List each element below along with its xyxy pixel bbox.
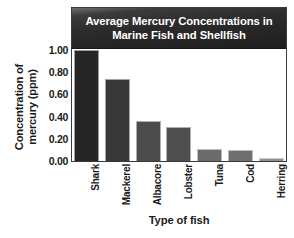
bar-albacore <box>136 121 161 161</box>
x-tick-slot: Albacore <box>135 164 160 212</box>
y-axis-title-text: Concentration of mercury (ppm) <box>13 64 39 150</box>
plot-frame: Average Mercury Concentrations in Marine… <box>71 7 287 162</box>
plot-area <box>72 49 286 161</box>
chart-title: Average Mercury Concentrations in Marine… <box>79 14 278 42</box>
bar-cod <box>228 150 253 161</box>
x-tick-slot: Herring <box>260 164 285 212</box>
y-tick-label: 1.00 <box>49 44 68 56</box>
x-tick-label: Albacore <box>152 164 163 205</box>
y-tick-label: 0.80 <box>49 66 68 78</box>
bar-lobster <box>166 127 191 161</box>
x-tick-slot: Shark <box>73 164 98 212</box>
y-axis-title: Concentration of mercury (ppm) <box>9 46 43 168</box>
x-tick-slot: Lobster <box>166 164 191 212</box>
chart-title-line-1: Average Mercury Concentrations in <box>85 14 272 28</box>
x-tick-label: Tuna <box>214 164 225 186</box>
y-tick-label: 0.60 <box>49 88 68 100</box>
x-tick-slot: Tuna <box>198 164 223 212</box>
bar-shark <box>74 50 99 161</box>
y-tick-label: 0.20 <box>49 133 68 145</box>
chart-title-line-2: Marine Fish and Shellfish <box>85 28 272 42</box>
x-tick-slot: Mackerel <box>104 164 129 212</box>
bar-mackerel <box>105 79 130 161</box>
y-tick-label: 0.00 <box>49 155 68 167</box>
bar-tuna <box>197 149 222 161</box>
bar-herring <box>259 158 284 161</box>
chart-figure: Concentration of mercury (ppm) 1.000.800… <box>0 0 294 238</box>
y-tick-label: 0.40 <box>49 111 68 123</box>
x-tick-label: Mackerel <box>121 164 132 205</box>
y-axis-title-line-1: Concentration of <box>13 64 26 150</box>
x-axis-title: Type of fish <box>71 214 287 226</box>
x-tick-slot: Cod <box>229 164 254 212</box>
x-tick-label: Cod <box>245 164 256 183</box>
x-tick-label: Shark <box>90 164 101 191</box>
y-axis-ticks: 1.000.800.600.400.200.00 <box>42 50 68 162</box>
y-axis-title-line-2: mercury (ppm) <box>26 64 39 150</box>
bar-series <box>74 49 284 161</box>
chart-title-band: Average Mercury Concentrations in Marine… <box>72 8 286 49</box>
x-axis-ticks: SharkMackerelAlbacoreLobsterTunaCodHerri… <box>73 164 285 212</box>
x-tick-label: Lobster <box>183 164 194 199</box>
x-tick-label: Herring <box>276 164 287 198</box>
